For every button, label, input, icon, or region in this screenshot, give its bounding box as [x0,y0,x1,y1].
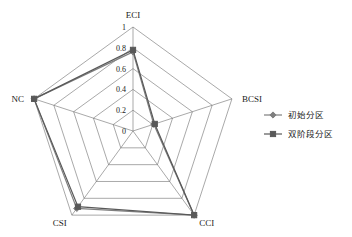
radar-series [31,47,197,218]
axis-label-eci: ECI [126,10,141,20]
legend-label-2: 双阶段分区 [288,129,333,139]
legend-label-1: 初始分区 [288,110,324,120]
square-marker [130,47,135,52]
tick-label-5: 1 [122,23,126,32]
square-marker [31,96,36,101]
tick-label-1: 0.2 [116,106,126,115]
tick-label-4: 0.8 [116,44,126,53]
square-marker [75,204,80,209]
chart-legend: 初始分区双阶段分区 [264,110,333,139]
axis-label-csi: CSI [53,218,67,228]
axis-label-bcsi: BCSI [242,94,262,104]
axis-label-cci: CCI [199,218,214,228]
tick-label-0: 0 [122,127,126,136]
radar-chart-figure: 00.20.40.60.81 ECIBCSICCICSINC 初始分区双阶段分区 [0,0,352,237]
tick-label-3: 0.6 [116,65,126,74]
square-marker [270,131,275,136]
radar-axis-labels: ECIBCSICCICSINC [12,10,262,228]
radar-chart-svg: 00.20.40.60.81 ECIBCSICCICSINC 初始分区双阶段分区 [0,0,352,237]
tick-label-2: 0.4 [116,85,126,94]
square-marker [152,121,157,126]
diamond-marker [270,112,276,118]
series-polygon-1 [34,52,194,215]
axis-spoke-csi [72,131,133,215]
square-marker [192,213,197,218]
axis-label-nc: NC [12,94,25,104]
